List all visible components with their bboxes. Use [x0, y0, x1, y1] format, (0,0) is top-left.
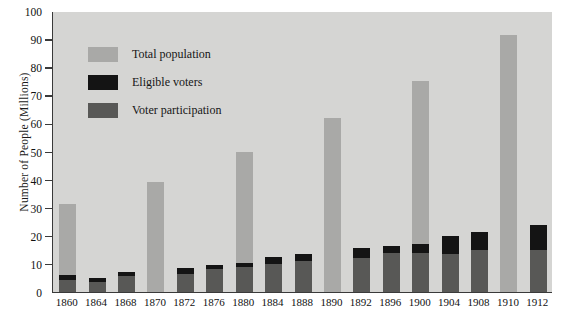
bar-group	[59, 11, 76, 292]
y-axis-tick: 40	[0, 175, 52, 187]
y-axis-tick-label: 80	[31, 62, 43, 74]
legend-item: Total population	[88, 44, 288, 66]
y-axis-tick-mark	[45, 236, 52, 237]
y-axis-tick-mark	[45, 39, 52, 40]
y-axis-tick-label: 0	[36, 287, 42, 299]
bar-segment-voter-participation	[530, 250, 547, 292]
bar-segment-voter-participation	[236, 267, 253, 292]
bar-segment-total-population	[147, 182, 164, 292]
y-axis-tick-mark	[45, 124, 52, 125]
y-axis-tick-mark	[45, 95, 52, 96]
bar-segment-total-population	[500, 35, 517, 292]
y-axis-tick: 10	[0, 259, 52, 271]
y-axis-tick: 30	[0, 203, 52, 215]
y-axis-tick-label: 40	[31, 175, 43, 187]
y-axis-tick-label: 50	[31, 147, 43, 159]
y-axis-tick-label: 60	[31, 118, 43, 130]
x-axis-tick-label: 1910	[493, 296, 522, 308]
x-axis-tick-label: 1876	[199, 296, 228, 308]
y-axis-tick: 0	[0, 287, 52, 299]
x-axis-tick-label: 1890	[317, 296, 346, 308]
y-axis-tick: 90	[0, 34, 52, 46]
x-axis-tick-label: 1904	[434, 296, 463, 308]
x-axis-tick-label: 1888	[287, 296, 316, 308]
x-axis-tick-label: 1908	[464, 296, 493, 308]
bar-segment-voter-participation	[442, 254, 459, 292]
bar-segment-voter-participation	[265, 264, 282, 292]
y-axis-tick-list: 0102030405060708090100	[0, 0, 52, 326]
y-axis-tick: 80	[0, 62, 52, 74]
bar-group	[442, 11, 459, 292]
y-axis-tick-mark	[45, 264, 52, 265]
bar-segment-voter-participation	[383, 253, 400, 292]
chart-legend: Total populationEligible votersVoter par…	[88, 44, 288, 128]
y-axis-tick: 20	[0, 231, 52, 243]
legend-swatch	[88, 75, 118, 90]
bar-segment-voter-participation	[295, 261, 312, 292]
x-axis-tick-label: 1900	[405, 296, 434, 308]
legend-swatch	[88, 103, 118, 118]
bar-segment-voter-participation	[118, 276, 135, 292]
y-axis-tick: 60	[0, 118, 52, 130]
bar-segment-total-population	[324, 118, 341, 292]
y-axis-tick-mark	[45, 152, 52, 153]
bar-segment-voter-participation	[206, 269, 223, 292]
legend-label: Total population	[132, 45, 211, 64]
x-axis-tick-label: 1884	[258, 296, 287, 308]
y-axis-tick-label: 90	[31, 34, 43, 46]
y-axis-tick: 50	[0, 147, 52, 159]
legend-label: Eligible voters	[132, 73, 202, 92]
bar-segment-voter-participation	[412, 253, 429, 292]
x-axis-tick-label: 1860	[52, 296, 81, 308]
bar-group	[530, 11, 547, 292]
y-axis-tick-mark	[45, 67, 52, 68]
bar-group	[500, 11, 517, 292]
y-axis-tick: 100	[0, 6, 52, 18]
legend-item: Voter participation	[88, 100, 288, 122]
x-axis-tick-list: 1860186418681870187218761880188418881890…	[52, 296, 552, 320]
x-axis-tick-label: 1896	[376, 296, 405, 308]
y-axis-tick-label: 100	[25, 6, 42, 18]
bar-group	[324, 11, 341, 292]
bar-group	[383, 11, 400, 292]
legend-label: Voter participation	[132, 101, 221, 120]
bar-segment-voter-participation	[89, 282, 106, 292]
y-axis-tick-mark	[45, 180, 52, 181]
bar-group	[471, 11, 488, 292]
x-axis-tick-label: 1868	[111, 296, 140, 308]
bar-segment-voter-participation	[177, 274, 194, 292]
y-axis-tick-mark	[45, 208, 52, 209]
y-axis-tick-label: 10	[31, 259, 43, 271]
x-axis-tick-label: 1880	[228, 296, 257, 308]
x-axis-tick-label: 1870	[140, 296, 169, 308]
x-axis-tick-label: 1912	[523, 296, 552, 308]
bar-segment-voter-participation	[471, 250, 488, 292]
y-axis-tick-label: 70	[31, 90, 43, 102]
y-axis-tick-label: 30	[31, 203, 43, 215]
x-axis-tick-label: 1892	[346, 296, 375, 308]
y-axis-tick: 70	[0, 90, 52, 102]
bar-segment-voter-participation	[353, 258, 370, 292]
bar-group	[295, 11, 312, 292]
bar-segment-voter-participation	[59, 280, 76, 292]
y-axis-tick-label: 20	[31, 231, 43, 243]
x-axis-tick-label: 1872	[170, 296, 199, 308]
x-axis-tick-label: 1864	[81, 296, 110, 308]
bar-group	[353, 11, 370, 292]
legend-item: Eligible voters	[88, 72, 288, 94]
bar-group	[412, 11, 429, 292]
legend-swatch	[88, 47, 118, 62]
bar-chart: Number of People (Millions) 010203040506…	[0, 0, 571, 326]
